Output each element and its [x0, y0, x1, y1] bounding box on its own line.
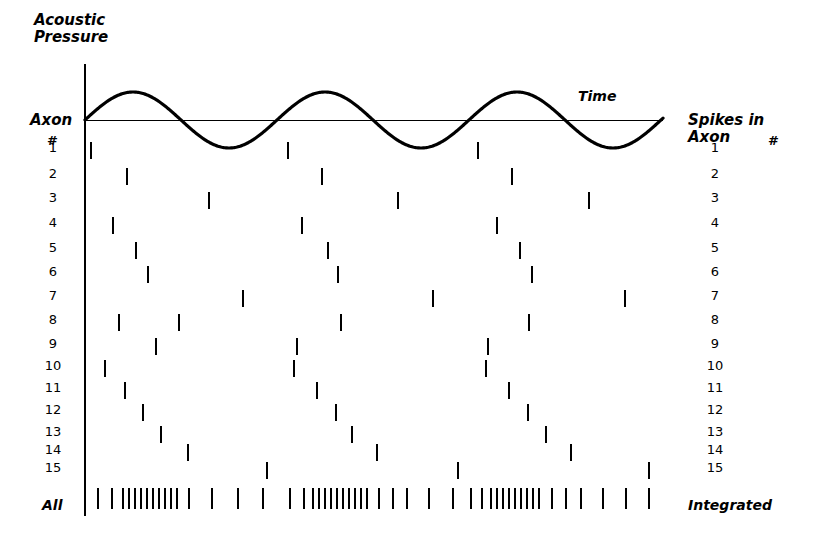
spike-tick	[124, 382, 126, 399]
integrated-spike-tick	[428, 488, 430, 509]
spike-tick	[485, 360, 487, 377]
spike-tick	[126, 168, 128, 185]
spike-tick	[293, 360, 295, 377]
all-row-label: All	[42, 497, 62, 513]
axon-number-5-left: 5	[38, 240, 68, 255]
axon-number-5-right: 5	[700, 240, 730, 255]
axon-number-4-right: 4	[700, 215, 730, 230]
spike-tick	[570, 444, 572, 461]
integrated-spike-tick	[97, 488, 99, 509]
integrated-spike-tick	[508, 488, 510, 509]
integrated-spike-tick	[514, 488, 516, 509]
vertical-axis	[84, 64, 86, 516]
integrated-spike-tick	[330, 488, 332, 509]
integrated-spike-tick	[176, 488, 178, 509]
spike-tick	[624, 290, 626, 307]
integrated-spike-tick	[158, 488, 160, 509]
integrated-spike-tick	[122, 488, 124, 509]
spike-tick	[340, 314, 342, 331]
integrated-row-label: Integrated	[688, 497, 772, 513]
axon-number-15-left: 15	[38, 460, 68, 475]
integrated-spike-tick	[354, 488, 356, 509]
spike-tick	[397, 192, 399, 209]
integrated-spike-tick	[360, 488, 362, 509]
spike-tick	[266, 462, 268, 479]
spike-tick	[351, 426, 353, 443]
integrated-spike-tick	[648, 488, 650, 509]
spike-tick	[487, 338, 489, 355]
axon-number-13-left: 13	[38, 424, 68, 439]
spike-tick	[178, 314, 180, 331]
integrated-spike-tick	[452, 488, 454, 509]
axon-number-1-left: 1	[38, 140, 68, 155]
spike-tick	[301, 217, 303, 234]
integrated-spike-tick	[526, 488, 528, 509]
spike-tick	[477, 142, 479, 159]
integrated-spike-tick	[348, 488, 350, 509]
integrated-spike-tick	[520, 488, 522, 509]
integrated-spike-tick	[170, 488, 172, 509]
axon-number-11-right: 11	[700, 380, 730, 395]
integrated-spike-tick	[490, 488, 492, 509]
spike-tick	[527, 404, 529, 421]
spike-tick	[208, 192, 210, 209]
integrated-spike-tick	[532, 488, 534, 509]
axon-number-6-left: 6	[38, 264, 68, 279]
integrated-spike-tick	[392, 488, 394, 509]
spike-tick	[531, 266, 533, 283]
axon-number-10-right: 10	[700, 358, 730, 373]
spike-tick	[511, 168, 513, 185]
spike-tick	[155, 338, 157, 355]
integrated-spike-tick	[140, 488, 142, 509]
acoustic-pressure-waveform	[0, 0, 818, 544]
integrated-spike-tick	[551, 488, 553, 509]
integrated-spike-tick	[211, 488, 213, 509]
axon-number-14-left: 14	[38, 442, 68, 457]
axon-number-9-left: 9	[38, 336, 68, 351]
axon-axis-label: Axon	[30, 112, 72, 129]
spike-tick	[296, 338, 298, 355]
integrated-spike-tick	[318, 488, 320, 509]
integrated-spike-tick	[496, 488, 498, 509]
integrated-spike-tick	[312, 488, 314, 509]
integrated-spike-tick	[565, 488, 567, 509]
spike-tick	[508, 382, 510, 399]
spike-tick	[457, 462, 459, 479]
spike-tick	[242, 290, 244, 307]
axon-number-10-left: 10	[38, 358, 68, 373]
spike-tick	[337, 266, 339, 283]
spike-tick	[588, 192, 590, 209]
axon-number-13-right: 13	[700, 424, 730, 439]
axon-number-12-left: 12	[38, 402, 68, 417]
spike-tick	[376, 444, 378, 461]
spike-tick	[160, 426, 162, 443]
axon-number-7-left: 7	[38, 288, 68, 303]
axon-number-9-right: 9	[700, 336, 730, 351]
spike-tick	[112, 217, 114, 234]
integrated-spike-tick	[342, 488, 344, 509]
page-title: Acoustic Pressure	[34, 12, 108, 47]
axon-number-3-left: 3	[38, 190, 68, 205]
acoustic-pressure-spike-raster-figure: Acoustic Pressure Time Axon # Spikes in …	[0, 0, 818, 544]
spike-tick	[135, 242, 137, 259]
axon-number-3-right: 3	[700, 190, 730, 205]
spike-tick	[648, 462, 650, 479]
integrated-spike-tick	[324, 488, 326, 509]
integrated-spike-tick	[262, 488, 264, 509]
axon-number-15-right: 15	[700, 460, 730, 475]
integrated-spike-tick	[378, 488, 380, 509]
integrated-spike-tick	[146, 488, 148, 509]
integrated-spike-tick	[152, 488, 154, 509]
integrated-spike-tick	[406, 488, 408, 509]
axon-number-7-right: 7	[700, 288, 730, 303]
integrated-spike-tick	[366, 488, 368, 509]
axon-number-4-left: 4	[38, 215, 68, 230]
integrated-spike-tick	[111, 488, 113, 509]
integrated-spike-tick	[134, 488, 136, 509]
spike-tick	[496, 217, 498, 234]
spike-tick	[519, 242, 521, 259]
spike-tick	[335, 404, 337, 421]
spike-tick	[104, 360, 106, 377]
axon-number-8-left: 8	[38, 312, 68, 327]
integrated-spike-tick	[502, 488, 504, 509]
